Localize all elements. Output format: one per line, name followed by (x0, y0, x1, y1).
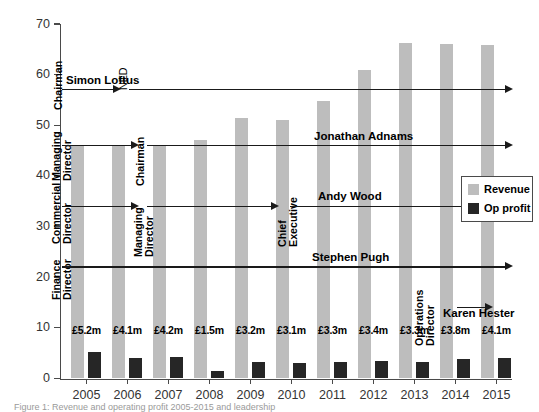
x-tick (414, 379, 415, 384)
legend-swatch-icon (468, 184, 479, 195)
x-tick (373, 379, 374, 384)
x-tick-label: 2013 (392, 389, 438, 402)
role-label-line: Director (425, 289, 436, 345)
x-tick (332, 379, 333, 384)
x-tick-label: 2005 (64, 389, 110, 402)
y-tick (54, 327, 60, 328)
figure-caption: Figure 1: Revenue and operating profit 2… (14, 403, 534, 412)
x-tick-label: 2012 (351, 389, 397, 402)
x-tick (127, 379, 128, 384)
arrow-andy-wood-md-head (271, 202, 279, 210)
legend-label: Op profit (484, 202, 530, 215)
revenue-bar (71, 146, 84, 379)
arrow-ned-head (505, 85, 513, 93)
role-label-line: Chairman (53, 61, 64, 110)
role-label-operations-director: OperationsDirector (414, 289, 436, 345)
y-tick-label: 50 (0, 119, 50, 132)
y-tick-label: 40 (0, 169, 50, 182)
role-label-line: Director (62, 131, 73, 181)
person-karen-hester: Karen Hester (443, 308, 515, 320)
arrow-simon-loftus-line (62, 89, 114, 90)
role-label-managing-director: ManagingDirector (51, 131, 73, 181)
arrow-jonathan-adnams-md-line (62, 145, 132, 146)
arrow-andy-wood-cd-line (62, 206, 132, 207)
op-profit-bar (170, 357, 184, 378)
chart-legend: RevenueOp profit (461, 176, 533, 222)
x-tick (209, 379, 210, 384)
op-profit-data-label: £4.1m (105, 325, 151, 336)
person-andy-wood: Andy Wood (318, 191, 382, 203)
role-label-line: Executive (288, 197, 299, 247)
role-label-line: Director (62, 183, 73, 244)
role-label-finance-director: FinanceDirector (51, 259, 73, 300)
op-profit-data-label: £3.8m (433, 325, 479, 336)
x-tick-label: 2011 (310, 389, 356, 402)
y-tick-label: 10 (0, 321, 50, 334)
arrow-jonathan-adnams-chair-head (505, 141, 513, 149)
x-tick-label: 2006 (105, 389, 151, 402)
role-label-chief-executive: ChiefExecutive (277, 197, 299, 247)
arrow-ned-line (129, 89, 506, 90)
x-tick-label: 2008 (187, 389, 233, 402)
x-tick-label: 2009 (228, 389, 274, 402)
person-simon-loftus: Simon Loftus (66, 75, 139, 87)
y-tick-label: 30 (0, 220, 50, 233)
y-tick-label: 20 (0, 271, 50, 284)
x-tick (291, 379, 292, 384)
revenue-bar (317, 101, 330, 379)
chart-canvas: 010203040506070 200520062007200820092010… (0, 0, 539, 412)
arrow-stephen-pugh-line (62, 266, 506, 267)
role-label-line: Director (144, 207, 155, 257)
op-profit-bar (88, 352, 102, 378)
revenue-bar (276, 120, 289, 378)
revenue-bar (194, 140, 207, 378)
op-profit-bar (252, 362, 266, 378)
arrow-stephen-pugh-head (505, 262, 513, 270)
op-profit-data-label: £5.2m (64, 325, 110, 336)
revenue-bar (235, 118, 248, 379)
op-profit-data-label: £3.4m (351, 325, 397, 336)
revenue-bar (112, 146, 125, 379)
arrow-jonathan-adnams-md-head (131, 141, 139, 149)
role-label-line: Director (62, 259, 73, 300)
arrow-jonathan-adnams-chair-line (147, 145, 506, 146)
revenue-bar (153, 146, 166, 379)
op-profit-bar (293, 363, 307, 379)
op-profit-bar (129, 358, 143, 379)
role-label-chairman: Chairman (53, 61, 64, 110)
person-stephen-pugh: Stephen Pugh (312, 252, 389, 264)
op-profit-bar (375, 361, 389, 378)
x-tick (496, 379, 497, 384)
legend-label: Revenue (484, 183, 530, 196)
y-tick (54, 23, 60, 24)
op-profit-data-label: £3.3m (310, 325, 356, 336)
op-profit-bar (334, 362, 348, 379)
x-tick-label: 2007 (146, 389, 192, 402)
y-tick (54, 378, 60, 379)
op-profit-data-label: £1.5m (187, 325, 233, 336)
x-tick (168, 379, 169, 384)
x-tick-label: 2014 (433, 389, 479, 402)
x-tick (455, 379, 456, 384)
op-profit-data-label: £3.1m (269, 325, 315, 336)
x-tick (86, 379, 87, 384)
op-profit-data-label: £4.1m (474, 325, 520, 336)
role-label-commercial-director: CommercialDirector (51, 183, 73, 244)
y-tick-label: 60 (0, 68, 50, 81)
op-profit-bar (211, 371, 225, 379)
role-label-managing-director: ManagingDirector (133, 207, 155, 257)
arrow-andy-wood-md-line (147, 206, 272, 207)
op-profit-bar (416, 362, 430, 379)
op-profit-data-label: £3.2m (228, 325, 274, 336)
person-jonathan-adnams: Jonathan Adnams (314, 131, 413, 143)
legend-swatch-icon (468, 203, 479, 214)
op-profit-bar (498, 358, 512, 379)
op-profit-data-label: £4.2m (146, 325, 192, 336)
y-tick-label: 70 (0, 18, 50, 31)
y-tick-label: 0 (0, 372, 50, 385)
x-tick-label: 2010 (269, 389, 315, 402)
arrow-andy-wood-cd-head (131, 202, 139, 210)
op-profit-bar (457, 359, 471, 378)
y-tick (54, 125, 60, 126)
x-tick (250, 379, 251, 384)
